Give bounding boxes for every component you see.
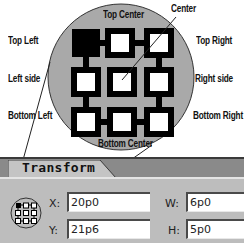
callout-left-side: Left side — [8, 73, 40, 84]
ref-square-right-side — [147, 70, 171, 94]
w-label: W: — [165, 197, 179, 210]
tab-transform[interactable]: Transform — [22, 160, 95, 175]
callout-bottom-center: Bottom Center — [98, 138, 153, 149]
h-field[interactable]: 5p0 — [186, 219, 244, 239]
x-label: X: — [49, 197, 60, 210]
ref-square-top-center — [108, 31, 132, 55]
ref-square-bottom-left — [74, 110, 98, 134]
y-label: Y: — [49, 224, 58, 237]
h-label: H: — [168, 224, 180, 237]
ref-square-top-left — [72, 29, 100, 57]
ref-square-top-right — [147, 31, 171, 55]
y-field[interactable]: 21p6 — [67, 219, 150, 239]
callout-top-left: Top Left — [8, 35, 38, 46]
reference-point-proxy[interactable] — [8, 188, 44, 238]
panel-tab-divider — [0, 177, 244, 179]
callout-center: Center — [171, 3, 196, 14]
x-field[interactable]: 20p0 — [67, 192, 150, 212]
ref-square-bottom-right — [147, 110, 171, 134]
ref-square-bottom-center — [110, 110, 134, 134]
callout-top-center: Top Center — [103, 9, 144, 20]
callout-top-right: Top Right — [196, 35, 232, 46]
ref-square-center — [110, 70, 134, 94]
callout-right-side: Right side — [195, 73, 233, 84]
w-field[interactable]: 6p0 — [186, 192, 244, 212]
ref-square-left-side — [74, 70, 98, 94]
callout-bottom-right: Bottom Right — [193, 110, 243, 121]
callout-bottom-left: Bottom Left — [8, 110, 52, 121]
proxy-top-left-selected-icon — [16, 203, 21, 208]
